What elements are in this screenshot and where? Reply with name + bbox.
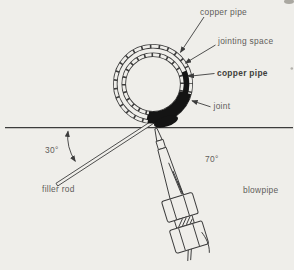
label-copper-pipe-outer: copper pipe	[200, 7, 247, 17]
label-angle-30: 30°	[45, 145, 59, 155]
leader-copper-pipe-outer	[181, 17, 205, 52]
blowpipe-body	[155, 147, 183, 200]
scan-speck-right-edge	[291, 67, 294, 70]
leader-jointing-space	[186, 45, 216, 63]
label-jointing-space: jointing space	[217, 36, 273, 46]
leader-joint	[192, 101, 211, 107]
blowpipe	[140, 124, 212, 264]
leader-copper-pipe-inner	[189, 74, 215, 77]
scan-speck-top-right	[284, 0, 294, 4]
pipe-brazing-diagram: copper pipe jointing space copper pipe j…	[0, 0, 294, 270]
label-filler-rod: filler rod	[42, 184, 75, 194]
blowpipe-hex-nut-2	[169, 221, 209, 254]
angle-arc-30	[68, 131, 76, 161]
label-copper-pipe-inner: copper pipe	[217, 68, 268, 78]
blowpipe-nozzle-tip	[153, 128, 162, 141]
label-joint: joint	[213, 101, 231, 111]
label-blowpipe: blowpipe	[243, 185, 279, 195]
label-angle-70: 70°	[205, 154, 219, 164]
